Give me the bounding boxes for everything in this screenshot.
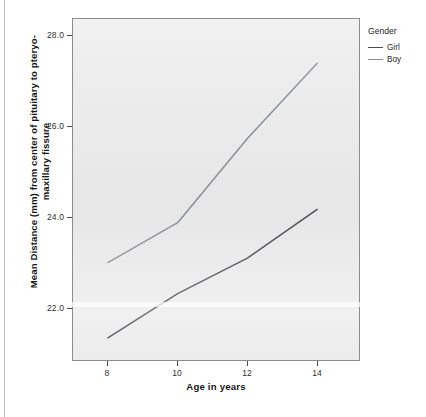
ytick-mark-26 [67,126,72,127]
legend-title: Gender [368,26,426,36]
legend-item-boy[interactable]: Boy [368,54,426,65]
xtick-mark-14 [317,361,318,366]
legend-label-boy: Boy [387,55,401,64]
figure-profile-plot: 28.0 26.0 24.0 22.0 8 10 12 14 Mean Dist… [0,0,426,417]
plot-lines-svg [73,19,359,360]
xtick-label-8: 8 [94,368,120,378]
ytick-mark-28 [67,35,72,36]
series-line-girl [108,209,317,337]
legend-item-girl[interactable]: Girl [368,42,426,53]
legend-label-girl: Girl [387,43,400,52]
legend: Gender Girl Boy [368,26,426,66]
y-axis-title: Mean Distance (mm) from center of pituit… [28,24,51,300]
xtick-mark-10 [177,361,178,366]
series-line-boy [108,63,317,262]
ytick-mark-22 [67,308,72,309]
figure-caption [14,404,414,417]
xtick-mark-8 [107,361,108,366]
xtick-mark-12 [247,361,248,366]
legend-swatch-girl [368,47,383,49]
x-axis-title: Age in years [72,381,360,392]
ytick-label-22: 22.0 [30,303,64,313]
plot-panel [72,18,360,361]
xtick-label-14: 14 [304,368,330,378]
xtick-label-10: 10 [164,368,190,378]
xtick-label-12: 12 [234,368,260,378]
ytick-mark-24 [67,217,72,218]
legend-swatch-boy [368,59,383,61]
